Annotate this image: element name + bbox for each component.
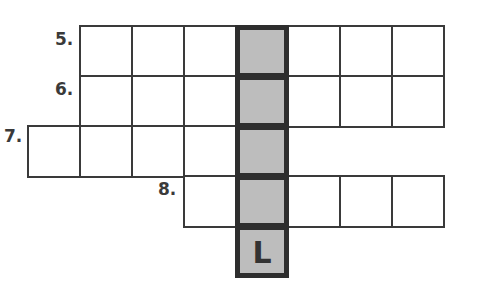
crossword-cell[interactable] — [131, 75, 185, 128]
highlighted-answer-cell[interactable] — [235, 175, 289, 228]
crossword-cell[interactable] — [339, 25, 393, 78]
highlighted-answer-cell[interactable]: L — [235, 225, 289, 278]
crossword-cell[interactable] — [183, 25, 237, 78]
crossword-cell[interactable] — [183, 125, 237, 178]
clue-number-label: 6. — [55, 81, 73, 98]
crossword-cell[interactable] — [79, 25, 133, 78]
crossword-cell[interactable] — [287, 25, 341, 78]
highlighted-answer-cell[interactable] — [235, 125, 289, 178]
crossword-cell[interactable] — [391, 25, 445, 78]
crossword-cell[interactable] — [339, 75, 393, 128]
crossword-cell[interactable] — [27, 125, 81, 178]
crossword-cell[interactable] — [391, 75, 445, 128]
crossword-cell[interactable] — [339, 175, 393, 228]
crossword-cell[interactable] — [287, 75, 341, 128]
crossword-cell[interactable] — [183, 75, 237, 128]
cell-letter: L — [252, 238, 271, 268]
highlighted-answer-cell[interactable] — [235, 75, 289, 128]
crossword-cell[interactable] — [391, 175, 445, 228]
clue-number-label: 5. — [55, 31, 73, 48]
crossword-cell[interactable] — [79, 75, 133, 128]
crossword-cell[interactable] — [131, 125, 185, 178]
clue-number-label: 8. — [158, 181, 176, 198]
highlighted-answer-cell[interactable] — [235, 25, 289, 78]
crossword-grid: 5.6.7.8.L — [0, 0, 494, 301]
crossword-cell[interactable] — [287, 175, 341, 228]
crossword-cell[interactable] — [79, 125, 133, 178]
clue-number-label: 7. — [4, 128, 22, 145]
crossword-cell[interactable] — [183, 175, 237, 228]
crossword-cell[interactable] — [131, 25, 185, 78]
